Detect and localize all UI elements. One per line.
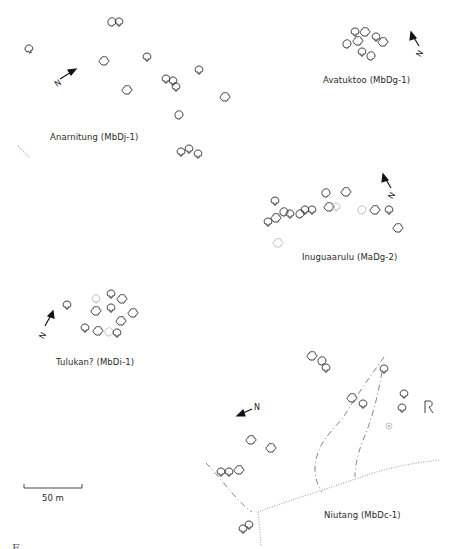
north-arrow-niutang: N [237,403,260,416]
svg-text:N: N [386,191,397,201]
svg-text:N: N [53,78,63,89]
site-plans-figure: N N [0,0,450,549]
site-label-anarnitung: Anarnitung (MbDj-1) [50,132,138,142]
site-label-avatuktoo: Avatuktoo (MbDg-1) [323,75,410,85]
figure-caption-cropped: F . . . . . . . . . . . . . . . . . . . … [12,543,442,549]
site-label-inuguaarulu: Inuguaarulu (MaDg-2) [302,252,397,262]
site-niutang-features [206,352,440,546]
north-arrow-anarnitung: N [53,69,76,89]
scale-bar [24,484,82,488]
svg-text:N: N [414,49,425,59]
svg-text:N: N [37,331,48,341]
site-label-niutang: Niutang (MbDc-1) [324,510,401,520]
site-tulukan-features [63,290,138,337]
north-arrow-tulukan: N [37,311,54,340]
site-avatuktoo-features [343,28,388,60]
svg-text:N: N [254,403,260,412]
north-arrow-avatuktoo: N [410,32,425,58]
site-label-tulukan: Tulukan? (MbDi-1) [56,357,134,367]
scale-bar-label: 50 m [42,493,64,503]
north-arrow-inuguaarulu: N [382,174,397,200]
site-inuguaarulu-features [264,188,403,247]
